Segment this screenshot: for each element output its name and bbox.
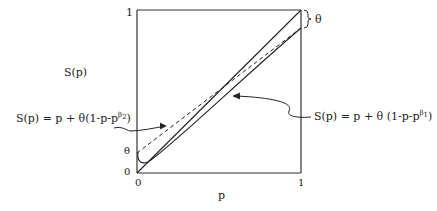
beta2-arrow <box>114 126 165 131</box>
y-tick-theta: θ <box>124 145 130 156</box>
x-tick-one: 1 <box>298 177 304 188</box>
brace-theta-label: θ <box>315 13 322 26</box>
beta2-formula: S(p) = p + θ(1-p-pβ2) <box>16 111 131 125</box>
beta1-formula-close: ) <box>428 110 432 123</box>
beta2-formula-main: S(p) = p + θ(1-p-p <box>16 112 118 125</box>
y-axis-label: S(p) <box>64 66 87 79</box>
beta2-curve <box>137 28 301 153</box>
beta2-arrowhead-icon <box>160 123 166 129</box>
theta-brace <box>304 10 311 28</box>
x-tick-zero: 0 <box>135 177 141 188</box>
beta1-curve <box>138 28 301 163</box>
diagram-canvas: θ 1 θ 0 0 1 S(p) p S(p) = p + θ(1-p-pβ2)… <box>0 0 437 211</box>
beta1-arrow <box>236 96 311 117</box>
x-axis-label: p <box>218 189 225 202</box>
beta1-formula: S(p) = p + θ (1-p-pβ1) <box>314 109 432 123</box>
beta1-arrowhead-icon <box>233 93 240 99</box>
beta1-formula-main: S(p) = p + θ (1-p-p <box>314 110 420 123</box>
diagonal-line <box>137 10 301 173</box>
y-tick-top: 1 <box>126 6 133 19</box>
beta2-formula-close: ) <box>127 112 131 125</box>
y-tick-zero: 0 <box>124 166 130 177</box>
